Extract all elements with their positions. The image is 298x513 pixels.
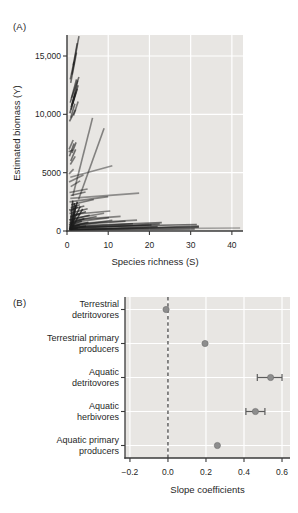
svg-text:detritovores: detritovores xyxy=(72,378,120,388)
svg-text:Aquatic: Aquatic xyxy=(89,401,120,411)
panel-a-ylabel: Estimated biomass (Y) xyxy=(11,85,22,181)
svg-text:Aquatic primary: Aquatic primary xyxy=(56,435,119,445)
panel-a-ytick-label: 15,000 xyxy=(35,51,61,61)
svg-text:producers: producers xyxy=(79,344,120,354)
panel-b-xtick-label: 0.2 xyxy=(200,467,212,477)
svg-text:producers: producers xyxy=(79,446,120,456)
panel-b-category-label: Aquaticdetritovores xyxy=(72,367,120,388)
panel-a-label: (A) xyxy=(13,21,26,32)
panel-a-plot-area xyxy=(67,35,243,231)
slope-point xyxy=(163,306,169,312)
slope-point xyxy=(202,340,208,346)
panel-a: 0102030400500010,00015,000Species richne… xyxy=(11,35,243,267)
figure-svg: 0102030400500010,00015,000Species richne… xyxy=(0,0,298,513)
svg-text:detritovores: detritovores xyxy=(72,310,120,320)
panel-a-xtick-label: 30 xyxy=(186,240,196,250)
slope-point xyxy=(252,408,258,414)
svg-text:Terrestrial primary: Terrestrial primary xyxy=(47,333,120,343)
panel-a-xtick-label: 0 xyxy=(65,240,70,250)
panel-b: −0.20.00.20.40.6TerrestrialdetritovoresT… xyxy=(47,297,290,495)
panel-b-category-label: Aquatic primaryproducers xyxy=(56,435,119,456)
panel-a-xtick-label: 40 xyxy=(227,240,237,250)
panel-b-xtick-label: −0.2 xyxy=(122,467,139,477)
figure: 0102030400500010,00015,000Species richne… xyxy=(0,0,298,513)
panel-b-category-label: Aquaticherbivores xyxy=(77,401,120,422)
panel-b-xtick-label: 0.6 xyxy=(276,467,288,477)
panel-b-category-label: Terrestrialdetritovores xyxy=(72,299,120,320)
panel-a-xtick-label: 20 xyxy=(145,240,155,250)
panel-b-xlabel: Slope coefficients xyxy=(170,484,245,495)
panel-a-ytick-label: 10,000 xyxy=(35,109,61,119)
panel-a-ytick-label: 5000 xyxy=(42,168,61,178)
panel-b-xtick-label: 0.4 xyxy=(238,467,250,477)
panel-b-xtick-label: 0.0 xyxy=(162,467,174,477)
svg-text:Terrestrial: Terrestrial xyxy=(79,299,119,309)
slope-point xyxy=(268,374,274,380)
svg-text:herbivores: herbivores xyxy=(77,412,120,422)
panel-a-xtick-label: 10 xyxy=(103,240,113,250)
panel-a-ytick-label: 0 xyxy=(56,226,61,236)
panel-b-label: (B) xyxy=(13,297,26,308)
panel-a-xlabel: Species richness (S) xyxy=(111,256,198,267)
svg-text:Aquatic: Aquatic xyxy=(89,367,120,377)
slope-point xyxy=(214,442,220,448)
panel-b-category-label: Terrestrial primaryproducers xyxy=(47,333,120,354)
